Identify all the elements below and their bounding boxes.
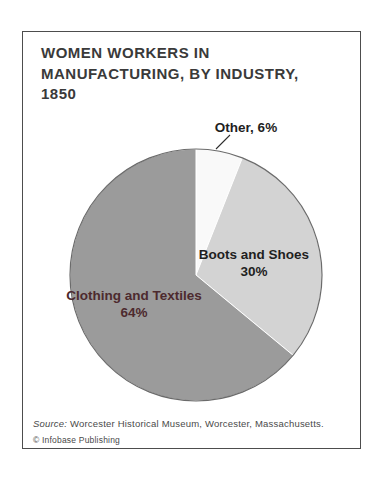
figure-frame: WOMEN WORKERS IN MANUFACTURING, BY INDUS… <box>22 31 361 449</box>
other-callout-line <box>216 135 230 149</box>
pie-label-other: Other, 6% <box>215 119 277 136</box>
source-prefix: Source: <box>33 418 67 429</box>
pie-chart <box>23 32 362 450</box>
source-note: Source: Worcester Historical Museum, Wor… <box>33 418 324 429</box>
pie-label-clothing-pct: 64% <box>66 304 202 321</box>
copyright-note: © Infobase Publishing <box>33 435 120 445</box>
pie-label-boots-and-shoes: Boots and Shoes 30% <box>199 246 309 280</box>
pie-label-boots-pct: 30% <box>199 263 309 280</box>
pie-label-clothing-and-textiles: Clothing and Textiles 64% <box>66 287 202 321</box>
pie-label-clothing-name: Clothing and Textiles <box>66 287 202 304</box>
figure-page: WOMEN WORKERS IN MANUFACTURING, BY INDUS… <box>0 0 384 477</box>
source-text: Worcester Historical Museum, Worcester, … <box>70 418 324 429</box>
pie-label-boots-name: Boots and Shoes <box>199 246 309 263</box>
pie-label-other-text: Other, 6% <box>215 119 277 136</box>
